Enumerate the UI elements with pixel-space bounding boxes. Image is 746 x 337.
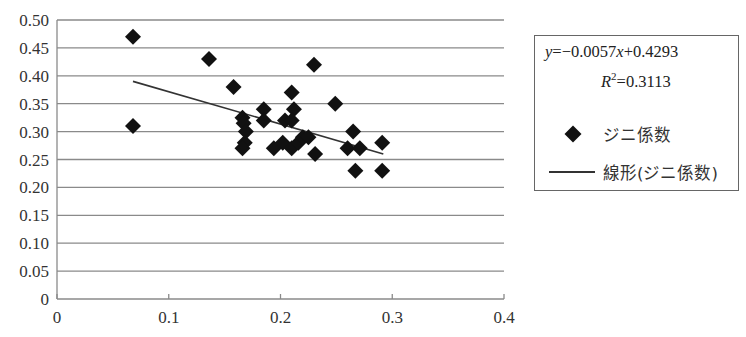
legend-item-gini: ジニ係数: [535, 122, 671, 146]
equation-intercept: +0.4293: [624, 42, 679, 61]
r2-label: R: [601, 72, 611, 91]
y-tick-label: 0.25: [19, 151, 49, 170]
data-point-diamond: [256, 112, 272, 128]
line-marker-icon: [549, 171, 595, 173]
data-point-diamond: [306, 57, 322, 73]
data-point-diamond: [226, 79, 242, 95]
y-tick-label: 0.45: [19, 39, 49, 58]
y-tick-label: 0.20: [19, 178, 49, 197]
r2-value: =0.3113: [617, 72, 671, 91]
equation-coef: =−0.0057: [552, 42, 616, 61]
x-axis-tick-labels: 00.10.20.30.4: [53, 308, 515, 327]
data-point-diamond: [345, 124, 361, 140]
data-point-diamond: [201, 51, 217, 67]
y-axis-tick-labels: 00.050.100.150.200.250.300.350.400.450.5…: [19, 11, 49, 309]
data-point-diamond: [352, 140, 368, 156]
x-tick-label: 0.3: [382, 308, 403, 327]
x-tick-label: 0.4: [493, 308, 515, 327]
x-tick-label: 0.1: [158, 308, 179, 327]
x-tick-label: 0: [53, 308, 62, 327]
legend-label-trend: 線形(ジニ係数): [603, 160, 718, 184]
legend-item-trend: 線形(ジニ係数): [535, 160, 718, 184]
trend-equation: y=−0.0057x+0.4293: [545, 42, 678, 62]
data-point-diamond: [125, 29, 141, 45]
x-tick-label: 0.2: [270, 308, 291, 327]
data-point-diamond: [327, 96, 343, 112]
data-point-diamond: [374, 163, 390, 179]
legend: y=−0.0057x+0.4293 R2=0.3113 ジニ係数 線形(ジニ係数…: [534, 35, 739, 191]
y-tick-label: 0: [41, 290, 50, 309]
y-tick-label: 0.15: [19, 206, 49, 225]
equation-x: x: [616, 42, 623, 61]
data-point-diamond: [284, 85, 300, 101]
y-tick-label: 0.10: [19, 234, 49, 253]
legend-label-gini: ジニ係数: [603, 122, 671, 146]
diamond-marker-icon: [565, 126, 582, 143]
y-tick-label: 0.50: [19, 11, 49, 30]
y-tick-label: 0.05: [19, 262, 49, 281]
y-tick-label: 0.35: [19, 95, 49, 114]
r-squared: R2=0.3113: [601, 70, 671, 92]
y-tick-label: 0.40: [19, 67, 49, 86]
y-tick-label: 0.30: [19, 123, 49, 142]
data-point-diamond: [347, 163, 363, 179]
data-point-diamond: [374, 135, 390, 151]
